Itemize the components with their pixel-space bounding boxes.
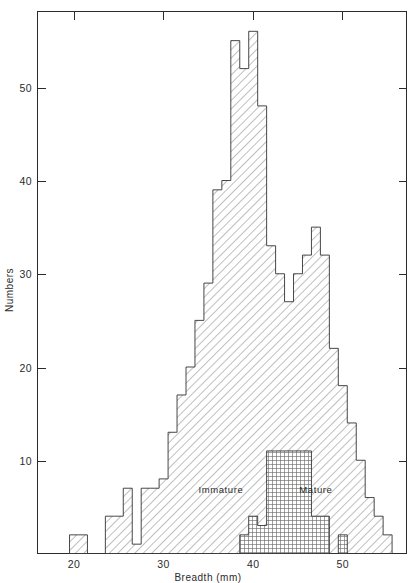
histogram-series-immature bbox=[70, 31, 393, 553]
y-tick-label-30: 30 bbox=[20, 268, 32, 280]
x-tick-label-50: 50 bbox=[337, 558, 349, 570]
x-axis-title: Breadth (mm) bbox=[174, 572, 241, 583]
series-annotation-mature: Mature bbox=[299, 484, 332, 495]
y-axis-tick-labels: 50 40 30 20 10 bbox=[20, 82, 32, 467]
y-tick-label-50: 50 bbox=[20, 82, 32, 94]
y-tick-label-20: 20 bbox=[20, 362, 32, 374]
y-axis-title: Numbers bbox=[4, 268, 15, 312]
y-tick-label-10: 10 bbox=[20, 455, 32, 467]
x-axis-tick-labels: 20 30 40 50 bbox=[68, 558, 349, 570]
y-tick-label-40: 40 bbox=[20, 175, 32, 187]
x-tick-label-30: 30 bbox=[157, 558, 169, 570]
chart-canvas: 50 40 30 20 10 20 30 40 50 Breadth (mm) … bbox=[0, 0, 416, 583]
series-annotation-immature: Immature bbox=[198, 484, 243, 495]
x-tick-label-40: 40 bbox=[247, 558, 259, 570]
histogram-figure: 50 40 30 20 10 20 30 40 50 Breadth (mm) … bbox=[0, 0, 416, 583]
x-tick-label-20: 20 bbox=[68, 558, 80, 570]
